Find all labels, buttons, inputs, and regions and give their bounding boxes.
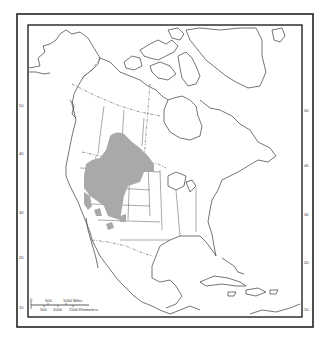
lat-label: 30 <box>304 212 309 217</box>
scale-label: 1500 Kilometers <box>69 307 98 312</box>
lat-label: 20 <box>19 255 24 260</box>
lat-label: 50 <box>19 103 24 108</box>
scale-label: 500 <box>40 307 47 312</box>
landmass-outlines <box>29 28 300 314</box>
scale-label: 1000 <box>53 307 63 312</box>
lat-label: 20 <box>304 260 309 265</box>
scale-bar: 0 500 1000 Miles 500 1000 1500 Kilometer… <box>30 297 98 312</box>
lat-label: 40 <box>304 163 309 168</box>
latitude-labels-left: 50 40 30 20 10 <box>19 103 24 310</box>
inner-frame <box>28 25 302 317</box>
scale-label: 0 <box>30 297 33 302</box>
lat-label: 50 <box>304 108 309 113</box>
lat-label: 10 <box>304 307 309 312</box>
range-map: 50 40 30 20 10 50 40 30 20 10 0 500 1000… <box>0 0 327 338</box>
species-range <box>84 132 154 230</box>
latitude-labels-right: 50 40 30 20 10 <box>304 108 309 312</box>
scale-label: 500 <box>45 298 52 303</box>
lat-label: 30 <box>19 210 24 215</box>
scale-label: 1000 Miles <box>63 298 82 303</box>
outer-frame <box>17 14 313 327</box>
lat-label: 40 <box>19 151 24 156</box>
lat-label: 10 <box>19 305 24 310</box>
